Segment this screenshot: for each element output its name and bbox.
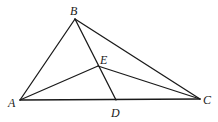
point-label-d: D (110, 106, 120, 120)
geometry-diagram: A B C D E (0, 0, 218, 122)
segment-bd (75, 19, 116, 100)
labels-group: A B C D E (7, 4, 212, 120)
point-label-b: B (70, 4, 78, 18)
point-label-c: C (203, 93, 212, 107)
segment-ac (20, 99, 200, 100)
segment-bc (75, 19, 200, 99)
point-label-a: A (7, 96, 16, 110)
triangle-figure: A B C D E (0, 0, 218, 122)
segments-group (20, 19, 200, 100)
point-label-e: E (99, 53, 108, 67)
